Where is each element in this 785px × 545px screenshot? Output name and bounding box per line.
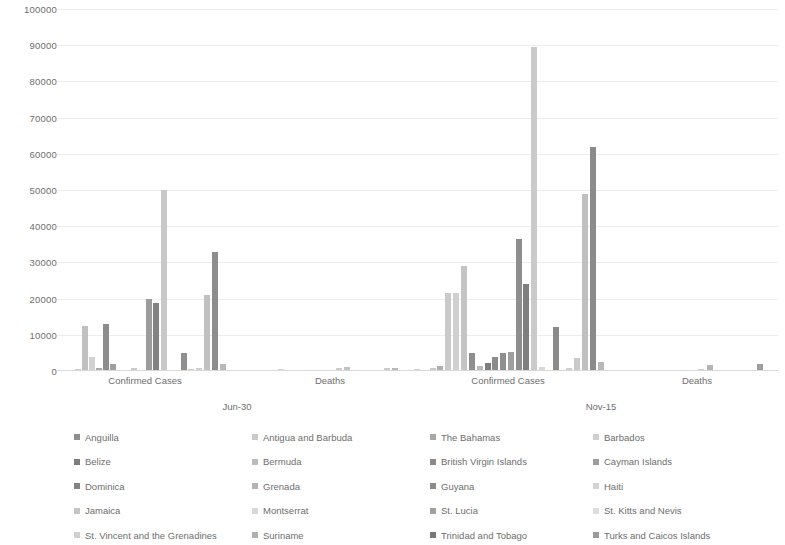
y-axis-tick-label: 100000 — [0, 4, 57, 15]
bar — [582, 194, 588, 371]
legend-swatch-icon — [430, 483, 436, 489]
legend-item: Haiti — [593, 482, 743, 492]
legend-item: Guyana — [430, 482, 593, 492]
legend-label: The Bahamas — [441, 433, 500, 443]
bar — [508, 352, 514, 371]
legend-swatch-icon — [252, 434, 258, 440]
legend-swatch-icon — [252, 483, 258, 489]
legend-swatch-icon — [430, 508, 436, 514]
legend-label: St. Vincent and the Grenadines — [85, 531, 217, 541]
bar — [161, 190, 167, 371]
bar — [89, 357, 95, 371]
legend-item: Barbados — [593, 433, 743, 443]
bar — [500, 353, 506, 371]
y-axis-tick-label: 40000 — [0, 221, 57, 232]
legend-swatch-icon — [430, 459, 436, 465]
y-axis-tick-label: 30000 — [0, 257, 57, 268]
bar — [204, 295, 210, 371]
legend-label: Belize — [85, 457, 111, 467]
legend-item: Grenada — [252, 482, 430, 492]
legend-item: Turks and Caicos Islands — [593, 531, 743, 541]
y-axis-tick-label: 90000 — [0, 40, 57, 51]
legend-item: Cayman Islands — [593, 457, 743, 467]
bar — [469, 353, 475, 371]
legend-label: Anguilla — [85, 433, 119, 443]
bar — [445, 293, 451, 371]
legend-item: Montserrat — [252, 506, 430, 516]
x-axis-category-label: Deaths — [315, 375, 345, 386]
legend-swatch-icon — [252, 532, 258, 538]
legend-item: St. Kitts and Nevis — [593, 506, 743, 516]
y-axis-tick-label: 0 — [0, 366, 57, 377]
legend-label: Suriname — [263, 531, 304, 541]
bar — [146, 299, 152, 371]
legend-label: Cayman Islands — [604, 457, 672, 467]
legend-label: Trinidad and Tobago — [441, 531, 527, 541]
legend-swatch-icon — [74, 483, 80, 489]
bar — [82, 326, 88, 371]
bar — [103, 324, 109, 371]
legend-label: Turks and Caicos Islands — [604, 531, 710, 541]
legend-swatch-icon — [74, 459, 80, 465]
legend-swatch-icon — [74, 434, 80, 440]
x-axis-baseline — [57, 370, 778, 371]
chart-legend: AnguillaAntigua and BarbudaThe BahamasBa… — [74, 425, 719, 545]
bar-series-layer — [57, 9, 778, 371]
bar — [153, 303, 159, 371]
legend-label: St. Lucia — [441, 506, 478, 516]
legend-item: British Virgin Islands — [430, 457, 593, 467]
legend-item: The Bahamas — [430, 433, 593, 443]
bar — [181, 353, 187, 371]
legend-item: Bermuda — [252, 457, 430, 467]
x-axis-category-label: Confirmed Cases — [108, 375, 181, 386]
legend-swatch-icon — [430, 532, 436, 538]
legend-label: Montserrat — [263, 506, 308, 516]
bar — [531, 47, 537, 371]
y-axis-tick-label: 50000 — [0, 185, 57, 196]
bar — [212, 252, 218, 371]
legend-label: British Virgin Islands — [441, 457, 527, 467]
legend-item: St. Lucia — [430, 506, 593, 516]
legend-label: Bermuda — [263, 457, 302, 467]
y-axis-tick-label: 70000 — [0, 112, 57, 123]
bar — [553, 327, 559, 371]
bar — [453, 293, 459, 371]
legend-swatch-icon — [593, 459, 599, 465]
bar — [574, 358, 580, 371]
y-axis-tick-label: 10000 — [0, 329, 57, 340]
legend-swatch-icon — [74, 508, 80, 514]
bar — [516, 239, 522, 371]
legend-label: Grenada — [263, 482, 300, 492]
x-axis-category-label: Deaths — [682, 375, 712, 386]
legend-label: Antigua and Barbuda — [263, 433, 352, 443]
legend-item: Trinidad and Tobago — [430, 531, 593, 541]
legend-item: Suriname — [252, 531, 430, 541]
legend-label: Jamaica — [85, 506, 120, 516]
x-axis-category-label: Confirmed Cases — [471, 375, 544, 386]
legend-swatch-icon — [593, 508, 599, 514]
legend-swatch-icon — [430, 434, 436, 440]
legend-swatch-icon — [74, 532, 80, 538]
legend-swatch-icon — [593, 532, 599, 538]
legend-swatch-icon — [593, 483, 599, 489]
legend-item: Dominica — [74, 482, 252, 492]
legend-swatch-icon — [252, 459, 258, 465]
legend-swatch-icon — [252, 508, 258, 514]
legend-item: Belize — [74, 457, 252, 467]
legend-item: Jamaica — [74, 506, 252, 516]
y-axis-tick-label: 20000 — [0, 293, 57, 304]
legend-item: St. Vincent and the Grenadines — [74, 531, 252, 541]
legend-swatch-icon — [593, 434, 599, 440]
legend-label: Dominica — [85, 482, 125, 492]
bar — [523, 284, 529, 371]
x-axis-group-label: Jun-30 — [222, 401, 251, 412]
bar — [461, 266, 467, 371]
x-axis-group-label: Nov-15 — [586, 401, 617, 412]
legend-label: Haiti — [604, 482, 623, 492]
plot-area — [57, 9, 778, 371]
legend-label: Barbados — [604, 433, 645, 443]
legend-item: Antigua and Barbuda — [252, 433, 430, 443]
legend-label: Guyana — [441, 482, 474, 492]
bar — [492, 357, 498, 371]
